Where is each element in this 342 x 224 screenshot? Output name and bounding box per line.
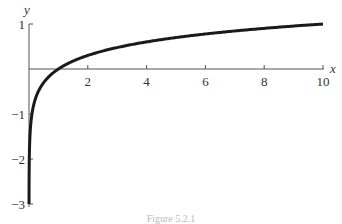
x-tick-label: 4: [143, 74, 150, 89]
ln-curve: [29, 24, 323, 204]
x-tick-label: 6: [202, 74, 209, 89]
x-axis-label: x: [329, 61, 336, 76]
x-tick-label: 10: [317, 74, 330, 89]
log-function-chart: 246810 1−1−2−3 x y: [0, 0, 342, 224]
x-tick-label: 8: [261, 74, 268, 89]
y-tick-label: −2: [11, 152, 25, 167]
y-tick-label: 1: [19, 17, 26, 32]
y-tick-label: −3: [11, 197, 25, 212]
y-axis-label: y: [22, 2, 30, 17]
y-tick-label: −1: [11, 107, 25, 122]
figure-caption: Figure 5.2.1: [0, 213, 342, 224]
axes: 246810 1−1−2−3 x y: [11, 2, 336, 212]
x-tick-label: 2: [85, 74, 92, 89]
